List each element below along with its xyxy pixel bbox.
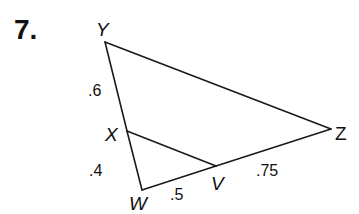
segment-v-z	[216, 129, 331, 166]
length-label-yx: .6	[88, 82, 101, 99]
vertex-label-v: V	[211, 173, 226, 194]
vertex-label-y: Y	[96, 19, 110, 40]
length-label-wv: .5	[170, 186, 183, 203]
vertex-label-z: Z	[335, 123, 347, 144]
segment-y-z	[105, 42, 331, 129]
length-label-vz: .75	[256, 162, 278, 179]
triangle-figure: Y X W V Z .6 .4 .5 .75	[0, 0, 359, 214]
length-label-xw: .4	[89, 162, 102, 179]
segment-x-w	[127, 131, 142, 190]
vertex-label-x: X	[104, 124, 119, 145]
segment-x-v	[127, 131, 216, 166]
vertex-label-w: W	[129, 193, 149, 214]
segment-y-x	[105, 42, 127, 131]
